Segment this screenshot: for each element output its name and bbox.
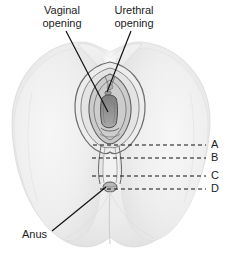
anatomy-illustration: [0, 0, 237, 259]
reference-letter-d: D: [211, 182, 219, 194]
urethral-label-line2: opening: [114, 17, 153, 29]
vaginal-label-line2: opening: [42, 17, 81, 29]
reference-letter-a: A: [211, 138, 218, 150]
vaginal-label-line1: Vaginal: [44, 4, 80, 16]
reference-letter-b: B: [211, 151, 218, 163]
urethral-opening-label: Urethralopening: [103, 4, 165, 29]
urethral-label-line1: Urethral: [114, 4, 153, 16]
anus-label: Anus: [22, 228, 47, 241]
reference-letter-c: C: [211, 169, 219, 181]
vaginal-opening-label: Vaginalopening: [33, 4, 91, 29]
anatomy-figure: Vaginalopening Urethralopening Anus ABCD: [0, 0, 237, 259]
